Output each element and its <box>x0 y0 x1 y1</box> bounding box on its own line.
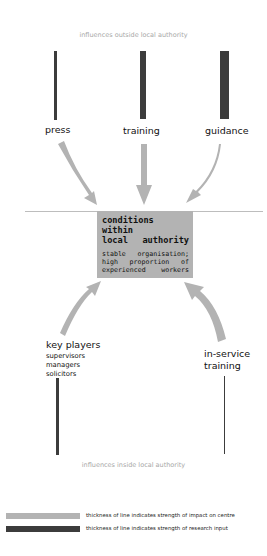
inside-region-label: influences inside local authority <box>0 461 267 469</box>
legend-impact-text: thickness of line indicates strength of … <box>86 512 235 518</box>
center-title-line1: conditions within <box>102 215 189 235</box>
in-service-training-impact-arrow <box>184 282 226 342</box>
key-players-research-bar <box>56 378 59 455</box>
key-players-sub-managers: managers <box>46 361 80 370</box>
key-players-sub-supervisors: supervisors <box>46 352 85 361</box>
legend-research-text: thickness of line indicates strength of … <box>86 525 228 531</box>
guidance-impact-arrow <box>186 144 221 203</box>
key-players-sub-solicitors: solicitors <box>46 370 76 379</box>
press-impact-arrow <box>58 141 97 205</box>
legend-impact-swatch <box>6 513 80 519</box>
training-impact-arrow <box>136 144 152 205</box>
center-desc-line3: experienced workers <box>102 266 189 274</box>
impact-arrows <box>0 0 267 556</box>
center-conditions-box: conditions within local authority stable… <box>97 211 193 278</box>
in-service-training-research-bar <box>224 376 225 454</box>
center-desc-line2: high proportion of <box>102 258 189 266</box>
center-title-line2: local authority <box>102 235 189 245</box>
key-players-impact-arrow <box>60 281 101 336</box>
in-service-training-label-line1: in-service <box>204 348 250 359</box>
legend-research-swatch <box>6 526 80 532</box>
in-service-training-label-line2: training <box>204 360 241 371</box>
center-desc-line1: stable organisation; <box>102 250 189 258</box>
key-players-label: key players <box>46 339 100 350</box>
